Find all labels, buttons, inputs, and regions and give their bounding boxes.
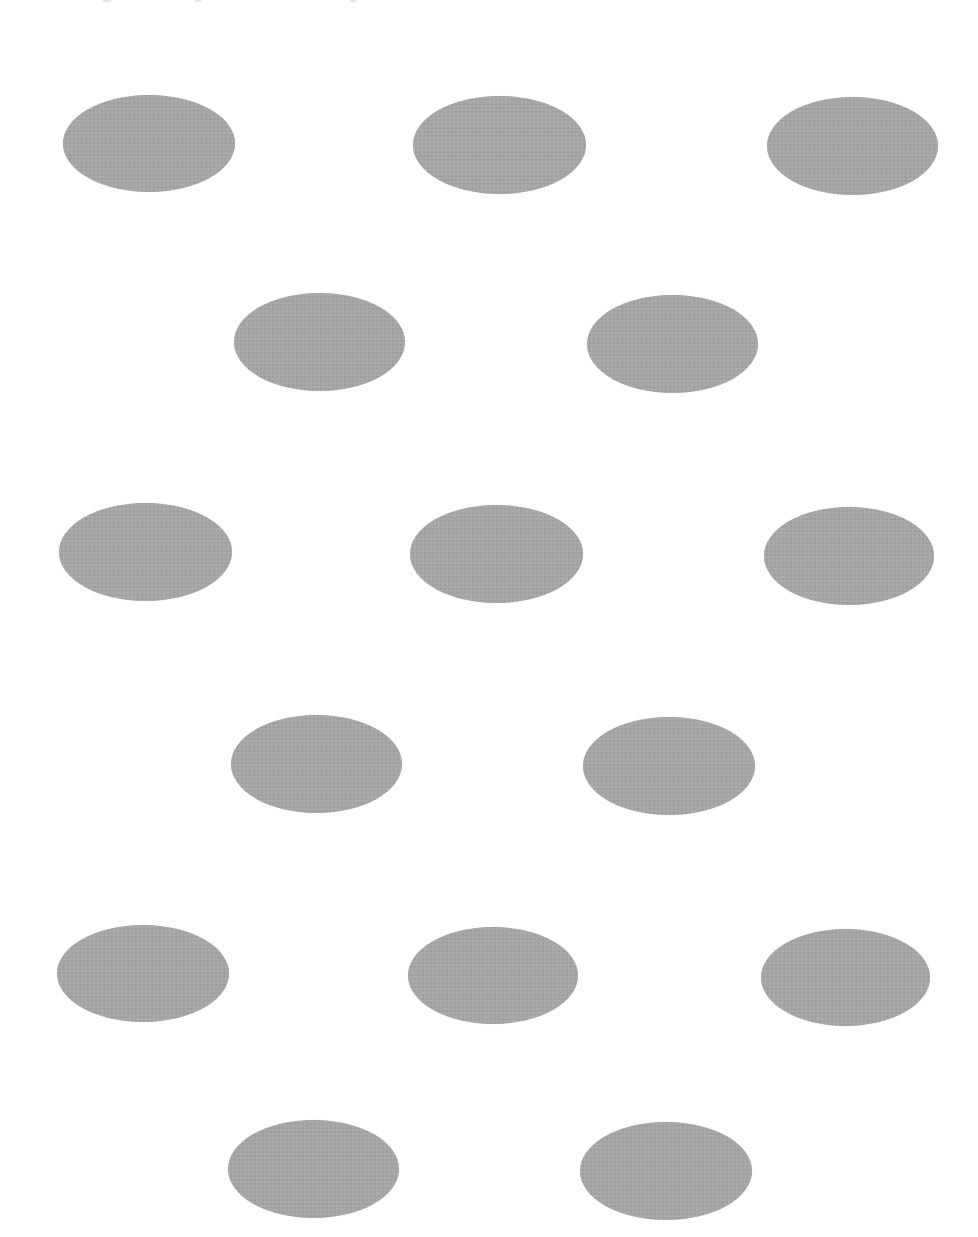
- gray-ellipse-r6-c1: [228, 1120, 399, 1218]
- gray-ellipse-r6-c2: [580, 1122, 752, 1220]
- gray-ellipse-r5-c2: [408, 927, 578, 1024]
- gray-ellipse-r4-c1: [231, 715, 402, 813]
- gray-ellipse-r2-c1: [234, 293, 405, 391]
- gray-ellipse-r5-c3: [761, 929, 930, 1026]
- gray-ellipse-r2-c2: [587, 295, 758, 393]
- gray-ellipse-r4-c2: [583, 717, 755, 815]
- gray-ellipse-r3-c1: [59, 503, 232, 601]
- gray-ellipse-r3-c3: [764, 507, 934, 605]
- gray-ellipse-r1-c2: [413, 96, 586, 194]
- gray-ellipse-r1-c3: [767, 97, 938, 195]
- clipped-text-fragment: [103, 0, 111, 2]
- gray-ellipse-r3-c2: [410, 505, 583, 603]
- clipped-text-fragment: [195, 0, 201, 2]
- gray-ellipse-r1-c1: [63, 95, 235, 192]
- ellipse-pattern-canvas: [0, 0, 978, 1237]
- clipped-text-fragment: [350, 0, 356, 2]
- gray-ellipse-r5-c1: [57, 925, 229, 1022]
